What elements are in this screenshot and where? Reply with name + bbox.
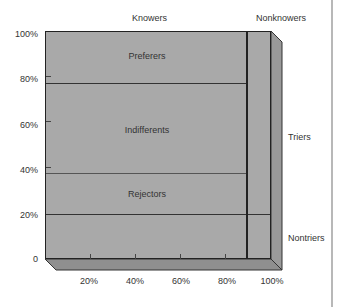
y-tick-mark-60	[46, 121, 51, 122]
y-tick-40: 40%	[0, 165, 38, 175]
y-tick-80: 80%	[0, 74, 38, 84]
x-tick-20: 20%	[80, 276, 98, 286]
x-tick-100: 100%	[260, 276, 283, 286]
x-tick-mark-80	[225, 254, 226, 259]
x-tick-60: 60%	[172, 276, 190, 286]
y-tick-60: 60%	[0, 120, 38, 130]
x-tick-mark-60	[180, 254, 181, 259]
y-tick-mark-80	[46, 76, 51, 77]
rejectors-label: Rejectors	[128, 189, 166, 199]
y-tick-20: 20%	[0, 210, 38, 220]
indifferents-rejectors-divider	[46, 173, 247, 174]
x-tick-mark-40	[135, 254, 136, 259]
y-tick-mark-40	[46, 167, 51, 168]
preferers-label: Preferers	[128, 51, 165, 61]
y-tick-100: 100%	[0, 29, 38, 39]
triers-nontriers-divider	[46, 214, 270, 215]
nontriers-label: Nontriers	[288, 233, 325, 243]
x-tick-mark-20	[90, 254, 91, 259]
y-tick-0: 0	[0, 254, 38, 264]
x-tick-80: 80%	[218, 276, 236, 286]
x-tick-40: 40%	[126, 276, 144, 286]
preferers-indifferents-divider	[46, 83, 247, 84]
plot-front-face	[45, 31, 271, 259]
knowers-nonknowers-divider	[246, 31, 248, 259]
triers-label: Triers	[288, 132, 311, 142]
indifferents-label: Indifferents	[125, 125, 169, 135]
page-separator	[331, 0, 333, 307]
